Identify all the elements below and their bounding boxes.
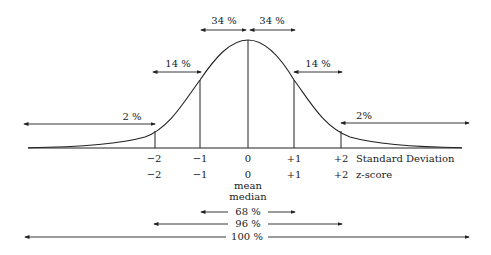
mean-label: mean — [234, 181, 262, 191]
z-tick-minus2: −2 — [147, 170, 162, 180]
label-14-left: 14 % — [165, 59, 190, 69]
label-34-right: 34 % — [259, 16, 284, 26]
sd-row-label: Standard Deviation — [356, 154, 454, 164]
label-2-right: 2% — [356, 111, 372, 121]
z-tick-minus1: −1 — [193, 170, 208, 180]
label-100: 100 % — [231, 232, 263, 242]
z-tick-plus2: +2 — [334, 170, 349, 180]
sd-tick-plus1: +1 — [287, 154, 302, 164]
label-14-right: 14 % — [305, 59, 330, 69]
median-label: median — [229, 192, 266, 202]
label-96: 96 % — [235, 219, 260, 229]
sd-tick-0: 0 — [245, 154, 251, 164]
z-row-label: z-score — [356, 170, 392, 180]
label-34-left: 34 % — [211, 16, 236, 26]
sd-tick-plus2: +2 — [334, 154, 349, 164]
sd-tick-minus1: −1 — [193, 154, 208, 164]
z-tick-plus1: +1 — [287, 170, 302, 180]
label-2-left: 2 % — [122, 112, 141, 122]
z-tick-0: 0 — [245, 170, 251, 180]
sd-tick-minus2: −2 — [147, 154, 162, 164]
bell-curve — [28, 40, 462, 148]
label-68: 68 % — [235, 207, 260, 217]
